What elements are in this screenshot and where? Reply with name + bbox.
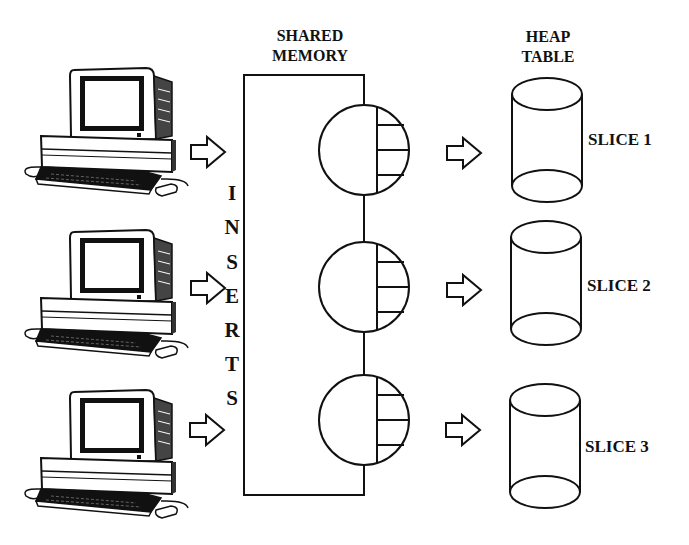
buffer-2: [319, 242, 409, 332]
slice-arrow-2: [447, 275, 481, 305]
inserts-letter: N: [222, 215, 242, 240]
slice-label-2: SLICE 2: [587, 276, 651, 296]
slice-label-1: SLICE 1: [588, 130, 652, 150]
heap-table-header: HEAP TABLE: [510, 27, 586, 67]
inserts-letter: E: [222, 284, 242, 309]
shared-memory-header-line2: MEMORY: [250, 46, 370, 66]
diagram-canvas: [0, 0, 689, 545]
slice-label-3: SLICE 3: [585, 437, 649, 457]
heap-slice-cylinder-1: [512, 78, 582, 202]
slice-arrow-1: [447, 138, 481, 168]
client-computer-3: [25, 390, 188, 518]
buffer-1: [319, 105, 409, 195]
heap-slice-cylinder-3: [510, 384, 580, 508]
insert-arrow-3: [190, 415, 224, 445]
shared-memory-header-line1: SHARED: [250, 26, 370, 46]
insert-arrow-1: [191, 137, 225, 167]
slice-arrow-3: [446, 415, 480, 445]
inserts-letter: T: [222, 352, 242, 377]
inserts-letter: S: [222, 250, 242, 275]
client-computer-1: [25, 68, 188, 196]
buffer-3: [319, 375, 409, 465]
heap-slice-cylinder-2: [511, 221, 581, 345]
client-computer-2: [25, 230, 188, 358]
insert-arrow-2: [191, 273, 225, 303]
heap-table-header-line2: TABLE: [510, 47, 586, 67]
heap-table-header-line1: HEAP: [510, 27, 586, 47]
inserts-letter: I: [222, 181, 242, 206]
inserts-letter: S: [222, 386, 242, 411]
inserts-letter: R: [222, 318, 242, 343]
shared-memory-header: SHARED MEMORY: [250, 26, 370, 66]
